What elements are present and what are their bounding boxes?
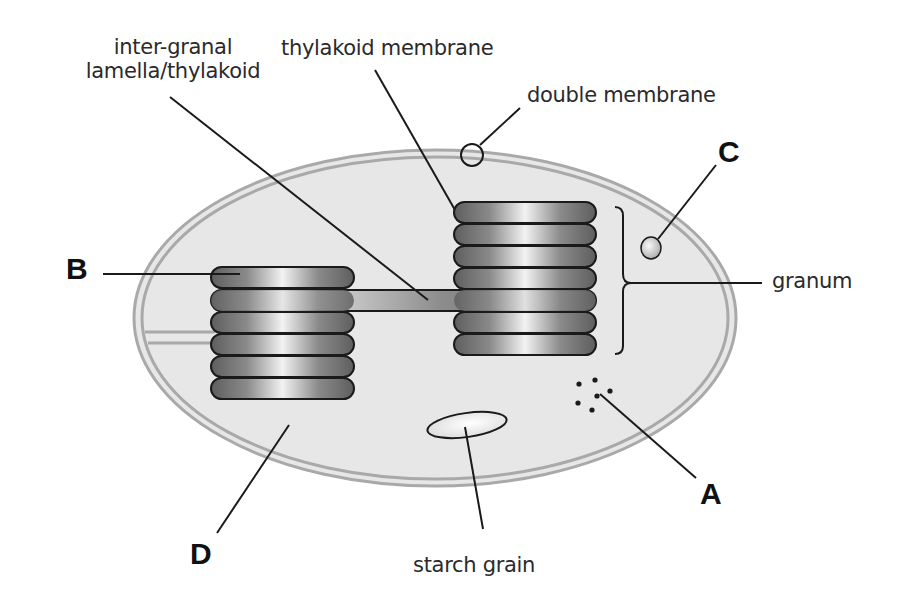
label-inter-granal-line1: inter-granal xyxy=(53,35,293,59)
label-thylakoid-membrane: thylakoid membrane xyxy=(281,36,493,60)
left-granum xyxy=(211,267,354,399)
label-starch-grain: starch grain xyxy=(413,553,535,577)
label-inter-granal: inter-granal lamella/thylakoid xyxy=(53,35,293,83)
label-inter-granal-line2: lamella/thylakoid xyxy=(53,59,293,83)
letter-c: C xyxy=(718,137,740,167)
diagram-canvas xyxy=(0,0,901,603)
right-granum xyxy=(454,202,596,355)
letter-d: D xyxy=(190,539,212,569)
label-double-membrane: double membrane xyxy=(527,83,716,107)
chloroplast-diagram: inter-granal lamella/thylakoid thylakoid… xyxy=(0,0,901,603)
letter-a: A xyxy=(700,479,722,509)
letter-b: B xyxy=(66,254,88,284)
label-granum: granum xyxy=(772,269,852,293)
inter-granal-lamella xyxy=(211,290,596,311)
plastoglobule xyxy=(641,237,661,259)
